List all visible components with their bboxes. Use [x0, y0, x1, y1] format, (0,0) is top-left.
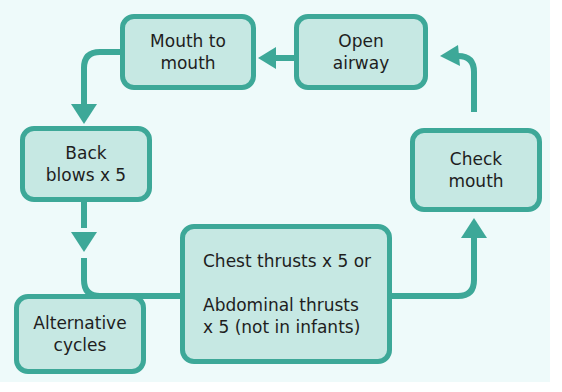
- node-back-blows: Back blows x 5: [20, 126, 152, 202]
- arrow-mouth-to-back: [84, 52, 122, 105]
- node-label: Check: [450, 148, 502, 170]
- arrowhead-up-icon: [461, 218, 487, 238]
- arrow-check-to-open: [448, 56, 474, 112]
- node-label: Abdominal thrusts: [203, 294, 359, 316]
- arrow-chest-to-check: [388, 238, 474, 296]
- node-alternative-cycles: Alternative cycles: [14, 294, 146, 374]
- node-mouth-to-mouth: Mouth to mouth: [120, 14, 256, 90]
- node-label: Open: [338, 30, 383, 52]
- node-chest-abdominal-thrusts: Chest thrusts x 5 or Abdominal thrusts x…: [180, 224, 392, 364]
- connector-alt-to-chest: [84, 258, 184, 296]
- arrowhead-down-icon: [71, 104, 97, 124]
- node-label: x 5 (not in infants): [203, 316, 360, 338]
- node-label: mouth: [448, 170, 503, 192]
- node-label: Back: [65, 142, 106, 164]
- node-label: blows x 5: [46, 164, 126, 186]
- node-label: airway: [333, 52, 390, 74]
- node-open-airway: Open airway: [294, 14, 428, 90]
- node-label: Mouth to: [150, 30, 226, 52]
- node-label: mouth: [160, 52, 215, 74]
- node-label: Chest thrusts x 5 or: [203, 250, 371, 272]
- node-label: cycles: [54, 334, 107, 356]
- arrowhead-down-icon: [71, 232, 97, 252]
- arrowhead-left-icon: [258, 47, 276, 69]
- node-label: Alternative: [33, 312, 126, 334]
- node-check-mouth: Check mouth: [410, 128, 542, 212]
- arrowhead-left-icon: [440, 45, 460, 66]
